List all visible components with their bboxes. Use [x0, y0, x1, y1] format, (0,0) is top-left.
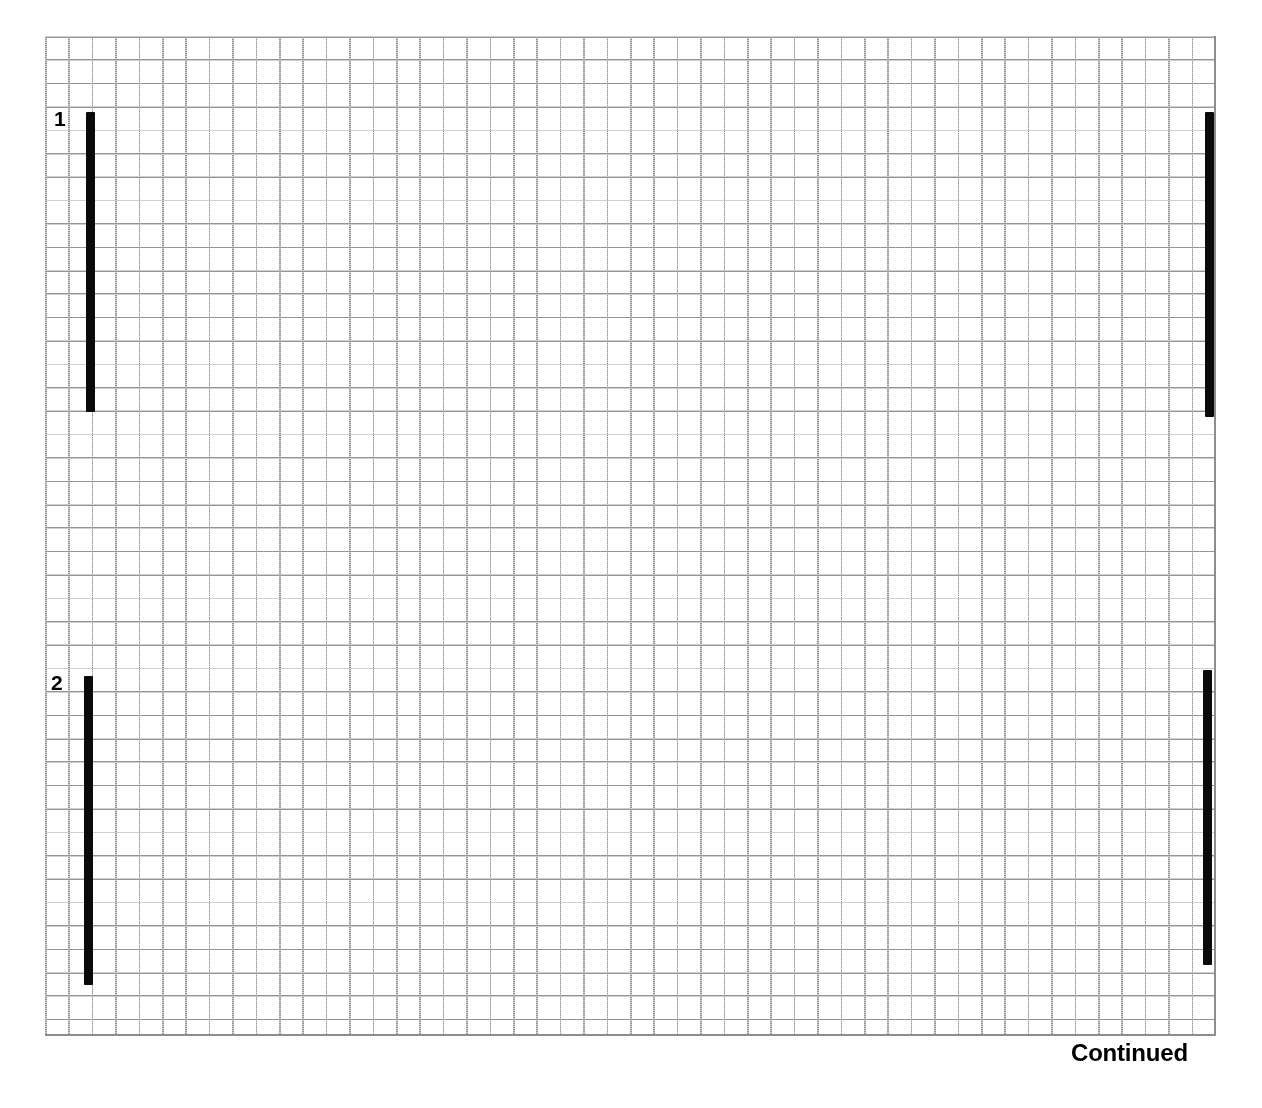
bar-row-2-right	[1203, 670, 1212, 965]
row-label-2: 2	[51, 672, 62, 693]
row-label-1: 1	[54, 108, 65, 129]
continued-label: Continued	[1071, 1040, 1188, 1065]
grid-right-edge-rule	[1214, 36, 1216, 1036]
bar-row-1-right	[1205, 112, 1214, 417]
bar-row-2-left	[84, 676, 93, 985]
graph-paper-grid	[45, 36, 1215, 1036]
grid-bottom-edge-rule	[45, 1034, 1216, 1036]
graph-paper-page: 1 2 Continued	[0, 0, 1262, 1108]
bar-row-1-left	[86, 112, 95, 412]
